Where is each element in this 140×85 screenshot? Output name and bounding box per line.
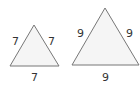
large-triangle-left-side-label: 9	[77, 27, 84, 40]
small-triangle-left-side-label: 7	[12, 35, 19, 48]
large-equilateral-triangle: 9 9 9	[72, 8, 139, 84]
small-triangle-bottom-side-label: 7	[31, 71, 38, 84]
large-triangle-right-side-label: 9	[126, 27, 133, 40]
large-triangle-bottom-side-label: 9	[102, 71, 109, 84]
small-triangle-right-side-label: 7	[48, 35, 55, 48]
triangles-diagram: 7 7 7 9 9 9	[0, 0, 140, 85]
small-equilateral-triangle: 7 7 7	[10, 25, 59, 84]
